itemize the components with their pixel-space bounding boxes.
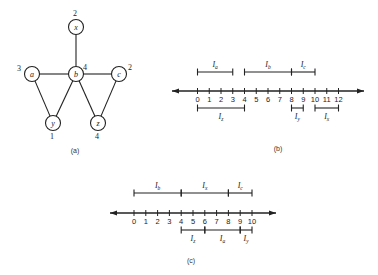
tick-label: 10 bbox=[311, 95, 319, 104]
node-degree-x: 2 bbox=[73, 9, 77, 18]
interval-label-Ib: Ib bbox=[264, 60, 271, 70]
node-label-x: x bbox=[73, 23, 78, 32]
left-arrow-icon bbox=[110, 211, 117, 216]
tick-label: 9 bbox=[238, 217, 242, 226]
tick-label: 6 bbox=[203, 217, 207, 226]
graph-edge-b-z bbox=[79, 81, 95, 116]
caption-b: (b) bbox=[274, 145, 283, 153]
interval-label-Iz: Iz bbox=[218, 112, 225, 122]
tick-label: 7 bbox=[215, 217, 219, 226]
right-arrow-icon bbox=[269, 211, 276, 216]
graph-edge-z-c bbox=[101, 81, 116, 116]
tick-label: 1 bbox=[207, 95, 211, 104]
node-label-a: a bbox=[30, 70, 34, 79]
interval-figure-b: 0123456789101112IaIbIcIzIyIx(b) bbox=[172, 60, 364, 153]
caption-a: (a) bbox=[71, 147, 80, 155]
interval-label-Ix: Ix bbox=[201, 181, 208, 191]
tick-label: 2 bbox=[219, 95, 223, 104]
tick-label: 4 bbox=[179, 217, 183, 226]
tick-label: 4 bbox=[242, 95, 246, 104]
tick-label: 3 bbox=[231, 95, 235, 104]
tick-label: 10 bbox=[248, 217, 256, 226]
node-degree-y: 1 bbox=[50, 132, 54, 141]
interval-label-Iy: Iy bbox=[243, 234, 250, 244]
interval-label-Ic: Ic bbox=[237, 181, 244, 191]
node-degree-c: 2 bbox=[128, 63, 132, 72]
caption-c: (c) bbox=[187, 257, 195, 265]
node-label-c: c bbox=[117, 70, 121, 79]
tick-label: 8 bbox=[289, 95, 293, 104]
graph-figure-a: x2a3b4c2y1z4(a) bbox=[17, 9, 132, 155]
graph-edge-y-b bbox=[56, 81, 73, 116]
interval-label-Ia: Ia bbox=[219, 234, 226, 244]
node-degree-z: 4 bbox=[95, 132, 99, 141]
node-label-b: b bbox=[74, 70, 78, 79]
interval-figure-c: 012345678910IbIxIcIzIaIy(c) bbox=[110, 181, 276, 265]
tick-label: 11 bbox=[323, 95, 331, 104]
graph-edge-a-y bbox=[35, 81, 50, 116]
tick-label: 7 bbox=[278, 95, 282, 104]
tick-label: 3 bbox=[167, 217, 171, 226]
tick-label: 8 bbox=[226, 217, 230, 226]
interval-label-Ic: Ic bbox=[300, 60, 307, 70]
node-degree-a: 3 bbox=[17, 64, 21, 73]
interval-label-Ix: Ix bbox=[323, 112, 330, 122]
tick-label: 1 bbox=[144, 217, 148, 226]
interval-label-Ia: Ia bbox=[211, 60, 218, 70]
tick-label: 0 bbox=[195, 95, 199, 104]
tick-label: 2 bbox=[156, 217, 160, 226]
interval-label-Iz: Iz bbox=[190, 234, 197, 244]
node-degree-b: 4 bbox=[83, 63, 87, 72]
tick-label: 12 bbox=[334, 95, 342, 104]
tick-label: 0 bbox=[132, 217, 136, 226]
tick-label: 9 bbox=[301, 95, 305, 104]
node-label-y: y bbox=[50, 119, 55, 128]
tick-label: 5 bbox=[191, 217, 195, 226]
left-arrow-icon bbox=[172, 89, 179, 94]
right-arrow-icon bbox=[357, 89, 364, 94]
tick-label: 6 bbox=[266, 95, 270, 104]
tick-label: 5 bbox=[254, 95, 258, 104]
interval-label-Iy: Iy bbox=[294, 112, 301, 122]
interval-label-Ib: Ib bbox=[154, 181, 161, 191]
figure-canvas: x2a3b4c2y1z4(a) 0123456789101112IaIbIcIz… bbox=[0, 0, 378, 275]
